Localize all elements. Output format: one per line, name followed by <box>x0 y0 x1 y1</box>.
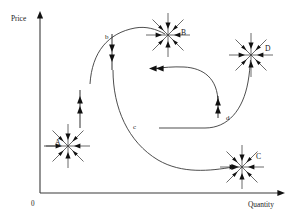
node-a-label: A <box>55 138 61 147</box>
y-axis-label: Price <box>11 14 27 23</box>
x-axis-arrowhead <box>277 190 285 196</box>
curve-mid-arrowhead-2 <box>156 65 164 71</box>
curve-c-label: c <box>133 123 136 131</box>
node-a-upflow-arrowhead-2 <box>77 106 83 114</box>
node-a-upflow-arrowhead-1 <box>77 96 83 104</box>
axes-group <box>37 11 285 196</box>
curve-b-path <box>90 27 165 84</box>
node-d-label: D <box>265 44 271 53</box>
curve-b-arrowhead-1 <box>109 44 115 52</box>
diagram-canvas: Price Quantity 0 A B C D b c d <box>0 0 297 223</box>
curve-b-arrowhead-2 <box>109 54 115 62</box>
separatrix-curves-group <box>44 27 251 170</box>
origin-label: 0 <box>31 200 35 208</box>
node-b-label: B <box>181 28 186 37</box>
x-axis-label: Quantity <box>248 200 274 209</box>
node-c-label: C <box>256 152 261 161</box>
curve-b-label: b <box>105 33 109 41</box>
y-axis-arrowhead <box>37 11 43 19</box>
curve-d-label: d <box>226 114 230 122</box>
curve-d-arrowhead-1 <box>215 98 221 106</box>
node-d <box>229 33 273 77</box>
labels-group: Price Quantity 0 A B C D b c d <box>11 14 274 209</box>
phase-diagram-figure: Price Quantity 0 A B C D b c d <box>0 0 297 223</box>
curve-mid-arrowhead-1 <box>149 65 157 71</box>
node-a <box>46 124 90 168</box>
curve-d-arrowhead-2 <box>215 106 221 114</box>
curve-d-path <box>159 60 251 128</box>
curve-mid-path <box>155 67 218 103</box>
